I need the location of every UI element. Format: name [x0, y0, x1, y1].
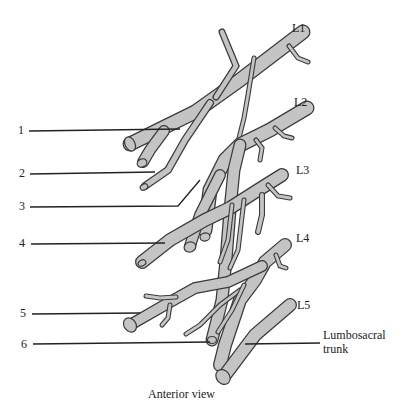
level-label-l5: L5 — [297, 299, 310, 312]
callout-2: 2 — [19, 167, 25, 180]
callout-1: 1 — [18, 124, 24, 137]
level-label-l1: L1 — [292, 22, 305, 35]
callout-5: 5 — [20, 307, 26, 320]
level-label-l2: L2 — [294, 96, 307, 109]
lumbar-plexus-diagram: L1 L2 L3 L4 L5 1 2 3 4 5 6 Lumbosacral t… — [0, 0, 406, 414]
figure-caption: Anterior view — [148, 388, 215, 401]
lumbosacral-label-line1: Lumbosacral — [323, 329, 386, 342]
lumbosacral-label-line2: trunk — [323, 343, 348, 356]
callout-6: 6 — [21, 338, 27, 351]
level-label-l4: L4 — [296, 232, 309, 245]
callout-4: 4 — [19, 237, 25, 250]
nerves — [121, 32, 308, 387]
level-label-l3: L3 — [296, 164, 309, 177]
callout-3: 3 — [19, 200, 25, 213]
